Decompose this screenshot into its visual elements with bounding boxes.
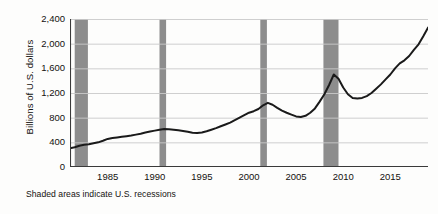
y-tick-label: 800 xyxy=(28,113,65,123)
recession-band xyxy=(260,19,267,167)
y-tick-label: 2,000 xyxy=(28,39,65,49)
gridlines xyxy=(70,20,428,143)
x-tick-label: 1995 xyxy=(191,171,212,183)
x-tick-label: 2015 xyxy=(380,171,401,183)
chart-figure: Billions of U.S. dollars 04008001,2001,6… xyxy=(0,0,438,214)
chart-canvas xyxy=(70,19,428,167)
y-tick-label: 1,200 xyxy=(28,88,65,98)
x-tick-label: 2000 xyxy=(238,171,259,183)
x-tick-label: 1990 xyxy=(144,171,165,183)
plot-area xyxy=(70,19,428,167)
recession-bands xyxy=(75,19,339,167)
chart-caption: Shaded areas indicate U.S. recessions xyxy=(26,189,176,199)
recession-band xyxy=(160,19,167,167)
y-tick-label: 2,400 xyxy=(28,14,65,24)
series-lines xyxy=(70,28,428,149)
series-line xyxy=(70,28,428,149)
x-tick-label: 2005 xyxy=(286,171,307,183)
axis-lines xyxy=(70,19,428,167)
y-tick-label: 400 xyxy=(28,137,65,147)
x-tick-label: 2010 xyxy=(333,171,354,183)
x-tick-label: 1985 xyxy=(97,171,118,183)
y-tick-label: 1,600 xyxy=(28,63,65,73)
x-axis-tick-labels: 1985199019952000200520102015 xyxy=(0,171,438,185)
